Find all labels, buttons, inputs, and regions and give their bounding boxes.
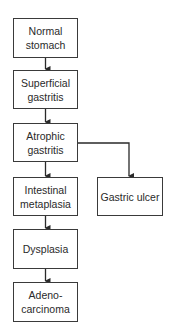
- arrow-atrophic-to-gastric-ulcer: [78, 143, 129, 176]
- node-normal-stomach: Normal stomach: [13, 18, 78, 58]
- node-adenocarcinoma: Adeno- carcinoma: [13, 282, 78, 322]
- node-atrophic-gastritis: Atrophic gastritis: [13, 123, 78, 162]
- node-intestinal-metaplasia: Intestinal metaplasia: [13, 177, 78, 216]
- node-dysplasia: Dysplasia: [13, 229, 78, 269]
- node-superficial-gastritis: Superficial gastritis: [13, 70, 78, 109]
- node-gastric-ulcer: Gastric ulcer: [97, 177, 163, 216]
